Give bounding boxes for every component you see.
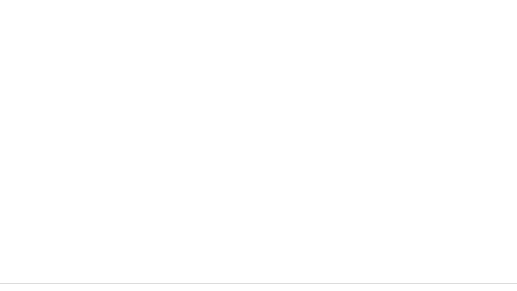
figure-bottom-divider xyxy=(0,283,517,284)
bottom-chart-panel xyxy=(0,133,517,281)
figure-container xyxy=(0,0,517,291)
top-chart-panel xyxy=(0,0,517,133)
